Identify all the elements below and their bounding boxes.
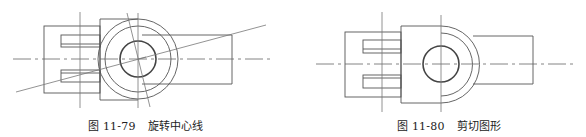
figure-11-79: 图 11-79旋转中心线: [0, 0, 293, 137]
left-body-outline: [44, 26, 100, 93]
figure-11-80: 图 11-80剪切图形: [293, 0, 586, 137]
caption-number: 图 11-80: [397, 120, 445, 133]
left-body-outline: [345, 32, 401, 97]
right-arm-outline: [473, 36, 533, 84]
upper-slot: [61, 35, 100, 47]
figure-caption: 图 11-79旋转中心线: [88, 117, 204, 133]
caption-number: 图 11-79: [88, 120, 136, 133]
figure-caption: 图 11-80剪切图形: [397, 117, 501, 133]
middle-block-outline: [401, 26, 441, 103]
middle-block-outline: [100, 19, 138, 100]
caption-title: 剪切图形: [457, 120, 502, 133]
inner-arc: [441, 33, 473, 96]
outer-arc: [441, 26, 480, 103]
lower-slot: [61, 70, 100, 82]
caption-title: 旋转中心线: [148, 120, 204, 133]
